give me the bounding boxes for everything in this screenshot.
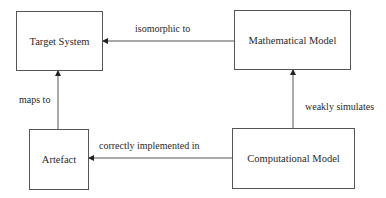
node-computational-model: Computational Model xyxy=(232,128,355,189)
node-computational-model-label: Computational Model xyxy=(247,153,339,164)
node-mathematical-model: Mathematical Model xyxy=(234,10,351,70)
edge-simulates-label: weakly simulates xyxy=(305,101,374,112)
node-target-system-label: Target System xyxy=(29,36,89,47)
edge-maps-label: maps to xyxy=(19,94,50,105)
node-target-system: Target System xyxy=(16,11,103,71)
node-mathematical-model-label: Mathematical Model xyxy=(249,35,337,46)
node-artefact-label: Artefact xyxy=(42,154,76,165)
edge-implemented-label: correctly implemented in xyxy=(99,140,200,151)
node-artefact: Artefact xyxy=(29,129,89,190)
edge-isomorphic-label: isomorphic to xyxy=(135,23,190,34)
